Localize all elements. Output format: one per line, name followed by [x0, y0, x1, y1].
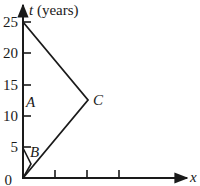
label-b: B [30, 144, 39, 160]
t-axis-label: t (years) [29, 2, 79, 19]
x-axis-ticks [55, 170, 119, 178]
x-axis-label: x [189, 169, 197, 185]
t-tick-label-20: 20 [3, 45, 18, 61]
label-c: C [93, 92, 104, 108]
spacetime-diagram: 0 5 10 15 20 25 t (years) x A B C [0, 0, 200, 186]
t-tick-label-5: 5 [11, 139, 19, 155]
t-tick-label-25: 25 [3, 14, 18, 30]
t-tick-label-0: 0 [5, 172, 13, 186]
t-axis-unit: (years) [33, 2, 78, 19]
t-tick-label-15: 15 [3, 77, 18, 93]
t-axis-ticks [23, 22, 31, 147]
t-tick-label-10: 10 [3, 108, 18, 124]
label-a: A [25, 94, 36, 110]
